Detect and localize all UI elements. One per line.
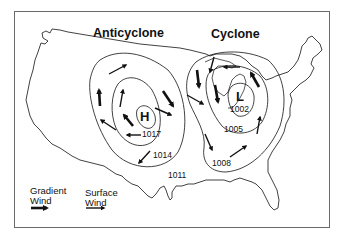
isobar-label-1002: 1002 bbox=[230, 104, 249, 114]
cyclone-wind-arrows bbox=[187, 57, 260, 157]
gradient-wind-arrow bbox=[163, 91, 173, 106]
gradient-wind-arrow bbox=[197, 70, 199, 87]
low-pressure-center: L bbox=[236, 89, 244, 104]
isobar-label-1017: 1017 bbox=[142, 129, 161, 139]
isobar-label-1008: 1008 bbox=[212, 158, 231, 168]
surface-wind-arrow bbox=[109, 65, 126, 74]
gradient-wind-arrow bbox=[124, 115, 133, 126]
surface-wind-arrow bbox=[230, 146, 246, 157]
high-pressure-center: H bbox=[140, 109, 149, 124]
surface-wind-arrow bbox=[120, 90, 123, 107]
surface-wind-arrow bbox=[139, 151, 150, 163]
gradient-wind-arrow bbox=[251, 73, 259, 87]
anticyclone-title: Anticyclone bbox=[93, 26, 164, 40]
gradient-wind-arrow bbox=[99, 90, 100, 106]
isobar-label-1011: 1011 bbox=[168, 170, 186, 180]
cyclone-title: Cyclone bbox=[211, 27, 260, 41]
legend-gradient-wind-label: Gradient Wind bbox=[30, 186, 66, 205]
legend-surface-wind-label: Surface Wind bbox=[85, 188, 118, 207]
anticyclone-wind-arrows bbox=[99, 65, 173, 163]
surface-wind-arrow bbox=[155, 108, 171, 115]
isobar-label-1005: 1005 bbox=[224, 124, 243, 134]
us-outline bbox=[26, 29, 322, 210]
isobar-label-1014: 1014 bbox=[153, 150, 172, 160]
surface-wind-arrow bbox=[205, 134, 212, 150]
gradient-wind-arrow bbox=[215, 85, 218, 102]
